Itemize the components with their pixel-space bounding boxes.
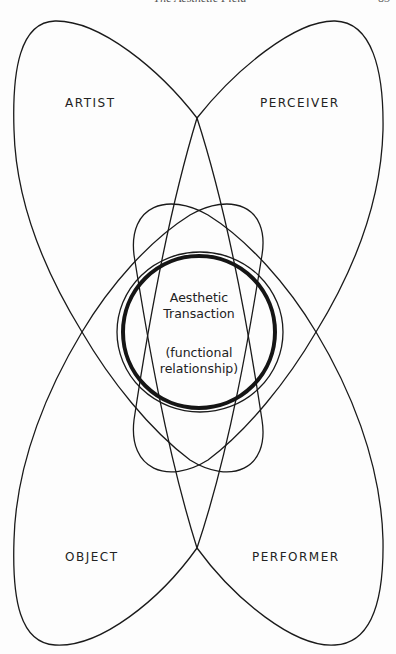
- center-subtitle-line1: (functional: [149, 345, 249, 361]
- label-object: OBJECT: [65, 550, 119, 564]
- center-subtitle-line2: relationship): [149, 361, 249, 377]
- performer-lobe: [133, 204, 383, 645]
- center-title-line1: Aesthetic: [149, 290, 249, 306]
- page: The Aesthetic Field 83 ARTIST PERCEIVER …: [0, 0, 396, 654]
- center-title: Aesthetic Transaction: [149, 290, 249, 322]
- object-lobe: [14, 204, 263, 645]
- center-title-line2: Transaction: [149, 306, 249, 322]
- label-perceiver: PERCEIVER: [260, 96, 340, 110]
- center-subtitle: (functional relationship): [149, 345, 249, 377]
- label-artist: ARTIST: [65, 96, 116, 110]
- aesthetic-transaction-circle: [123, 256, 275, 408]
- label-performer: PERFORMER: [252, 550, 340, 564]
